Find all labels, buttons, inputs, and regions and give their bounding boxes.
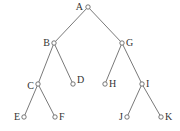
node-label-d: D [77, 74, 84, 85]
tree-diagram: ABGCDHIEFJK [0, 0, 180, 131]
node-b [52, 41, 56, 45]
node-f [53, 115, 57, 119]
node-label-a: A [76, 1, 84, 12]
edge-b-d [55, 45, 72, 82]
node-c [36, 82, 40, 86]
node-g [120, 41, 124, 45]
node-d [71, 82, 75, 86]
edge-a-b [56, 9, 87, 42]
node-label-b: B [43, 37, 50, 48]
node-i [140, 82, 144, 86]
tree-labels: ABGCDHIEFJK [14, 1, 173, 122]
node-label-e: E [14, 111, 20, 122]
node-label-g: G [126, 37, 133, 48]
node-label-i: I [146, 78, 149, 89]
tree-edges [25, 9, 160, 115]
edge-i-k [143, 86, 160, 115]
node-label-k: K [165, 111, 173, 122]
edge-i-j [128, 86, 141, 115]
edge-g-h [106, 45, 121, 82]
node-j [125, 115, 129, 119]
node-label-c: C [27, 80, 34, 91]
node-a [86, 5, 90, 9]
node-label-h: H [109, 78, 116, 89]
edge-g-i [123, 45, 141, 82]
node-h [103, 82, 107, 86]
tree-nodes [22, 5, 163, 119]
edge-a-g [90, 9, 121, 42]
node-label-j: J [119, 111, 123, 122]
node-k [159, 115, 163, 119]
node-e [22, 115, 26, 119]
edge-c-f [39, 86, 54, 115]
node-label-f: F [59, 111, 65, 122]
edge-b-c [39, 45, 53, 82]
